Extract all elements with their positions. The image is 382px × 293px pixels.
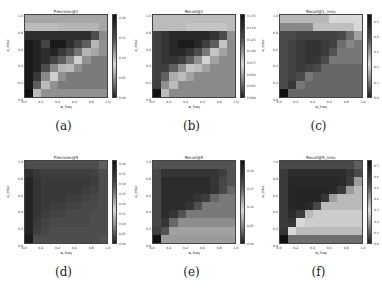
heatmap-cell [25,31,33,39]
x-tick-label: 0.0 [149,100,154,104]
heatmap-cell [153,72,161,80]
heatmap-cell [33,89,41,97]
heatmap-cell [210,89,218,97]
heatmap-cell [82,186,90,194]
heatmap-cell [313,210,321,218]
heatmap-cell [169,202,177,210]
y-tick-label: 0.8 [273,177,278,181]
heatmap-cell [169,194,177,202]
heatmap-cell [66,40,74,48]
heatmap-cell [202,48,210,56]
heatmap-cell [186,89,194,97]
heatmap-cell [313,31,321,39]
heatmap-cell [346,218,354,226]
heatmap-cell [58,177,66,185]
heatmap-cell [33,235,41,243]
heatmap-cell [296,64,304,72]
heatmap-cell [280,227,288,235]
heatmap-cell [280,48,288,56]
x-tick-label: 0.2 [38,246,43,250]
heatmap-cell [219,15,227,23]
heatmap-cell [66,81,74,89]
heatmap-cell [337,186,345,194]
x-tick-label: 0.8 [89,100,94,104]
heatmap-cell [194,169,202,177]
heatmap-cell [82,169,90,177]
heatmap-cell [354,186,362,194]
heatmap-cell [99,186,107,194]
heatmap-cell [25,210,33,218]
heatmap-cell [82,218,90,226]
colorbar-tick-label: 0.2 [374,65,379,69]
y-tick-label: 0.6 [273,48,278,52]
heatmap-cell [58,89,66,97]
y-tick-label: 0.8 [273,31,278,35]
heatmap-cell [74,194,82,202]
heatmap-cell [74,23,82,31]
heatmap-cell [66,48,74,56]
heatmap-cell [91,161,99,169]
heatmap-cell [82,81,90,89]
colorbar [240,160,245,244]
heatmap-cell [329,210,337,218]
heatmap-cell [169,64,177,72]
heatmap-cell [178,40,186,48]
heatmap-cell [50,81,58,89]
heatmap-cell [280,235,288,243]
heatmap-cell [227,40,235,48]
heatmap-cell [227,31,235,39]
heatmap-cell [74,202,82,210]
heatmap-cell [178,89,186,97]
y-axis-label: w_misc [261,39,265,52]
heatmap-cell [288,227,296,235]
heatmap-cell [227,56,235,64]
heatmap-cell [296,23,304,31]
heatmap-cell [321,218,329,226]
heatmap-cell [153,23,161,31]
heatmap-cell [194,81,202,89]
heatmap-cell [99,194,107,202]
heatmap-cell [58,186,66,194]
y-tick-label: 1.0 [273,14,278,18]
heatmap-cell [178,72,186,80]
heatmap-cell [82,161,90,169]
heatmap-cell [321,235,329,243]
heatmap-cell [41,227,49,235]
heatmap-cell [33,202,41,210]
y-tick-label: 1.0 [146,160,151,164]
heatmap-cell [178,48,186,56]
heatmap-cell [50,202,58,210]
heatmap-cell [329,235,337,243]
panel-caption: (f) [255,265,382,279]
heatmap-cell [280,194,288,202]
heatmap-cell [153,40,161,48]
y-tick-label: 0.8 [146,31,151,35]
colorbar-tick-label: 0.15 [119,36,126,40]
heatmap-cell [219,186,227,194]
heatmap-cell [99,169,107,177]
heatmap-cell [313,15,321,23]
heatmap-cell [33,161,41,169]
heatmap-cell [194,15,202,23]
heatmap-cell [25,218,33,226]
colorbar-tick-label: 0.3 [374,208,379,212]
heatmap-cell [58,161,66,169]
colorbar-tick-label: 0.1 [374,81,379,85]
heatmap-cell [169,210,177,218]
heatmap-cell [50,169,58,177]
heatmap-cell [354,81,362,89]
heatmap-cell [33,56,41,64]
heatmap-cell [161,186,169,194]
heatmap-cell [321,202,329,210]
heatmap-cell [153,210,161,218]
heatmap-cell [313,64,321,72]
heatmap-cell [66,89,74,97]
heatmap-cell [50,64,58,72]
heatmap-cell [91,81,99,89]
heatmap-cell [227,202,235,210]
heatmap-cell [25,56,33,64]
heatmap-cell [50,177,58,185]
heatmap-cell [178,31,186,39]
heatmap-cell [82,56,90,64]
heatmap-cell [25,81,33,89]
